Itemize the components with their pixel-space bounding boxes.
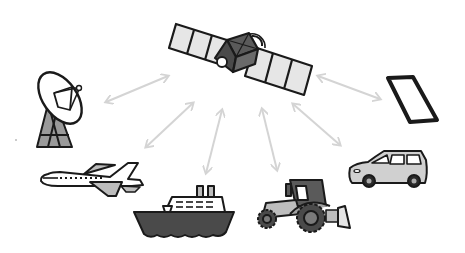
ship-icon <box>134 186 234 237</box>
arrow-satellite-tablet <box>318 76 380 99</box>
satellite-icon <box>169 24 312 95</box>
satellite-dish-icon <box>29 64 90 147</box>
arrow-satellite-car <box>293 104 340 145</box>
satellite-network-illustration <box>0 0 465 253</box>
arrow-satellite-airplane <box>146 103 193 147</box>
link-arrows <box>106 76 380 173</box>
arrow-satellite-tractor <box>262 109 277 170</box>
tablet-icon <box>388 77 437 122</box>
arrow-satellite-ship <box>206 110 222 173</box>
speck <box>15 139 17 141</box>
airplane-icon <box>41 163 143 196</box>
car-icon <box>349 151 426 187</box>
arrow-satellite-ground-station <box>106 76 168 102</box>
tractor-icon <box>258 180 350 232</box>
